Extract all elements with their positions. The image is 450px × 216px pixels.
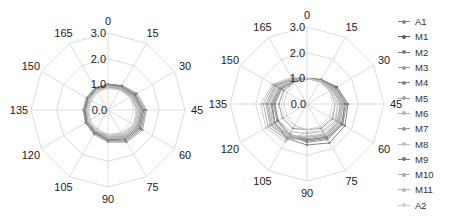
radar-plot-left: 0.01.02.03.00153045607590105120135150165 (0, 0, 220, 216)
radar-grid (230, 27, 384, 181)
svg-text:165: 165 (253, 21, 271, 33)
svg-text:75: 75 (345, 175, 357, 187)
svg-text:0: 0 (105, 15, 111, 27)
legend-item-m5: M5 (398, 90, 450, 105)
svg-text:105: 105 (54, 181, 72, 193)
legend-label: M2 (415, 47, 428, 58)
legend-item-m11: M11 (398, 182, 450, 197)
svg-text:15: 15 (146, 27, 158, 39)
legend-swatch-icon (398, 205, 410, 206)
legend-item-m9: M9 (398, 152, 450, 167)
svg-text:135: 135 (209, 98, 227, 110)
legend-item-m4: M4 (398, 75, 450, 90)
legend-swatch-icon (398, 98, 410, 99)
svg-text:0.0: 0.0 (291, 98, 306, 110)
svg-text:90: 90 (301, 187, 313, 199)
svg-text:120: 120 (221, 143, 239, 155)
svg-text:1.0: 1.0 (290, 72, 305, 84)
legend-label: M1 (415, 31, 428, 42)
legend-item-m8: M8 (398, 136, 450, 151)
svg-text:150: 150 (22, 60, 40, 72)
legend-item-m6: M6 (398, 106, 450, 121)
svg-text:30: 30 (179, 60, 191, 72)
legend-label: M3 (415, 62, 428, 73)
svg-text:135: 135 (10, 104, 28, 116)
svg-text:2.0: 2.0 (290, 47, 305, 59)
legend-label: M9 (415, 154, 428, 165)
legend-item-m1: M1 (398, 29, 450, 44)
svg-text:30: 30 (378, 54, 390, 66)
radar-chart-left: 0.01.02.03.00153045607590105120135150165 (0, 0, 220, 216)
legend-swatch-icon (398, 128, 410, 129)
legend-item-m7: M7 (398, 121, 450, 136)
legend-swatch-icon (398, 174, 410, 175)
svg-text:1.0: 1.0 (91, 78, 106, 90)
svg-text:60: 60 (378, 143, 390, 155)
legend-label: A2 (415, 200, 427, 211)
legend-label: M4 (415, 77, 428, 88)
radial-tick-labels: 0.01.02.03.0 (290, 21, 306, 110)
svg-text:150: 150 (221, 54, 239, 66)
svg-text:165: 165 (54, 27, 72, 39)
legend-item-a2: A2 (398, 198, 450, 213)
legend-swatch-icon (398, 113, 410, 114)
radar-series (260, 76, 349, 146)
legend-swatch-icon (398, 159, 410, 160)
legend-label: M5 (415, 93, 428, 104)
svg-text:105: 105 (253, 175, 271, 187)
legend-item-m2: M2 (398, 45, 450, 60)
radar-chart-right: 0.01.02.03.00153045607590105120135150165 (200, 0, 405, 216)
legend-label: M8 (415, 139, 428, 150)
legend-item-m10: M10 (398, 167, 450, 182)
legend-swatch-icon (398, 36, 410, 37)
svg-text:3.0: 3.0 (91, 27, 106, 39)
radar-grid (31, 33, 185, 187)
svg-text:120: 120 (22, 149, 40, 161)
legend-swatch-icon (398, 52, 410, 53)
legend-item-m3: M3 (398, 60, 450, 75)
radial-tick-labels: 0.01.02.03.0 (91, 27, 107, 116)
radar-plot-right: 0.01.02.03.00153045607590105120135150165 (200, 0, 405, 216)
legend-label: M7 (415, 123, 428, 134)
legend-label: M6 (415, 108, 428, 119)
legend-swatch-icon (398, 21, 410, 22)
legend-label: M10 (415, 169, 433, 180)
legend-label: A1 (415, 16, 427, 27)
legend-swatch-icon (398, 144, 410, 145)
svg-text:90: 90 (102, 193, 114, 205)
svg-text:75: 75 (146, 181, 158, 193)
legend-swatch-icon (398, 67, 410, 68)
svg-text:60: 60 (179, 149, 191, 161)
svg-text:2.0: 2.0 (91, 53, 106, 65)
svg-text:0: 0 (304, 9, 310, 21)
svg-text:15: 15 (345, 21, 357, 33)
legend-swatch-icon (398, 82, 410, 83)
svg-text:3.0: 3.0 (290, 21, 305, 33)
legend-item-a1: A1 (398, 14, 450, 29)
svg-text:0.0: 0.0 (92, 104, 107, 116)
legend-swatch-icon (398, 189, 410, 190)
chart-legend: A1M1M2M3M4M5M6M7M8M9M10M11A2 (398, 14, 450, 213)
legend-label: M11 (415, 184, 433, 195)
